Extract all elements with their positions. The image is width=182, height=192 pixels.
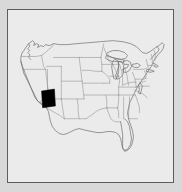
border-ky-oh-in <box>123 82 137 85</box>
border-nh-me <box>154 51 155 60</box>
lake-superior-outline <box>107 51 128 60</box>
border-sd-ne <box>82 70 102 71</box>
lake-ontario-outline <box>132 63 140 67</box>
locator-map-figure <box>0 0 182 192</box>
us-map-svg <box>8 10 173 182</box>
map-frame <box>7 9 174 183</box>
border-la-ms <box>118 108 119 118</box>
highlighted-state-utah <box>42 89 56 108</box>
puget-sound-coast <box>28 44 31 60</box>
border-nd-mn <box>101 44 104 58</box>
border-oh-pa-wv <box>132 72 136 87</box>
border-md-va-de <box>139 81 145 82</box>
border-pa-md-wv <box>135 78 146 79</box>
west-state-borders-group <box>22 45 86 119</box>
border-pa-ny <box>133 68 146 69</box>
border-ar-ms-tn <box>118 95 119 108</box>
border-ok-tx <box>86 108 107 119</box>
border-nm-tx <box>77 99 86 119</box>
border-az-nm <box>61 99 64 119</box>
border-mo-il-east <box>119 76 120 95</box>
border-in-oh <box>125 67 129 85</box>
great-lakes-group <box>106 51 141 80</box>
border-il-in <box>120 64 123 85</box>
northeast-state-borders-group <box>120 51 157 88</box>
border-ok-ar-east <box>106 95 107 108</box>
border-wa-or-id-east <box>42 55 46 69</box>
highlighted-state-group <box>42 89 56 108</box>
border-wa-or <box>22 55 42 56</box>
border-az-mexico <box>47 108 65 119</box>
border-wy-sd-ne <box>79 57 82 81</box>
border-ga-sc <box>135 95 139 113</box>
border-ny-vt-ma <box>146 59 148 68</box>
long-island-coast <box>146 69 154 72</box>
border-co-ks-ok <box>82 81 84 99</box>
plains-state-borders-group <box>79 44 120 119</box>
border-ne-ia-mo <box>102 71 110 83</box>
